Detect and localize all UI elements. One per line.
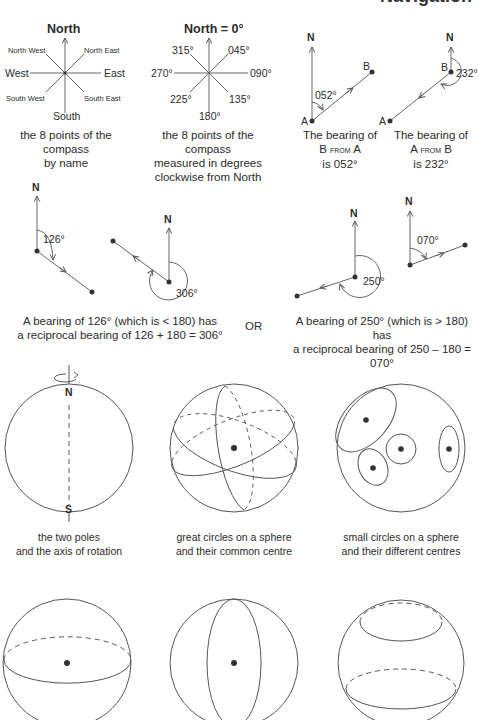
sphere-meridian xyxy=(170,599,298,720)
label-north-east: North East xyxy=(84,46,119,55)
label-n: N xyxy=(32,181,40,193)
label-n: N xyxy=(446,31,454,43)
direction-arrow-icon xyxy=(346,88,353,93)
label-n: N xyxy=(350,207,358,219)
label-south: South xyxy=(53,110,80,122)
label-east: East xyxy=(104,67,125,79)
label-135: 135° xyxy=(229,93,251,105)
label-south-west: South West xyxy=(6,94,45,103)
angle-arc-icon xyxy=(312,102,323,110)
label-angle-126: 126° xyxy=(43,233,65,245)
sphere-parallels xyxy=(338,600,464,720)
caption-sphere-poles: the two poles and the axis of rotation xyxy=(0,530,138,558)
label-225: 225° xyxy=(170,93,192,105)
label-point-a: A xyxy=(379,115,386,127)
label-north-west: North West xyxy=(8,46,45,55)
label-315: 315° xyxy=(172,44,194,56)
label-west: West xyxy=(5,67,29,79)
label-angle-232: 232° xyxy=(456,67,478,79)
bearing-a-from-b-diagram xyxy=(390,47,461,121)
label-south-east: South East xyxy=(84,94,121,103)
direction-arrow-icon xyxy=(133,256,140,261)
label-n: N xyxy=(164,213,172,225)
label-point-b: B xyxy=(441,61,448,73)
label-point-a: A xyxy=(301,115,308,127)
label-angle-070: 070° xyxy=(417,234,439,246)
caption-reciprocal-less: A bearing of 126° (which is < 180) has a… xyxy=(5,314,235,342)
direction-arrow-icon xyxy=(435,253,444,256)
direction-arrow-icon xyxy=(59,267,66,272)
label-angle-052: 052° xyxy=(315,89,337,101)
bearing-b-from-a-diagram xyxy=(312,47,372,121)
label-180: 180° xyxy=(199,110,221,122)
label-270: 270° xyxy=(151,67,173,79)
caption-reciprocal-greater: A bearing of 250° (which is > 180) has a… xyxy=(287,314,477,370)
point-a-dot xyxy=(310,119,315,124)
point-b-dot xyxy=(370,70,375,75)
angle-arc-icon xyxy=(410,248,426,259)
caption-great-circles: great circles on a sphere and their comm… xyxy=(163,530,305,558)
label-point-b: B xyxy=(363,60,370,72)
sphere-small-circles xyxy=(324,377,465,512)
caption-bearing-b-from-a: The bearing of B from A is 052° xyxy=(295,128,385,171)
or-label: OR xyxy=(245,320,262,332)
caption-bearing-a-from-b: The bearing of A from B is 232° xyxy=(386,128,476,171)
label-angle-306: 306° xyxy=(176,287,198,299)
direction-arrow-icon xyxy=(419,92,426,98)
label-angle-250: 250° xyxy=(363,275,385,287)
sphere-equator xyxy=(3,599,131,720)
rotation-arrow-icon xyxy=(54,374,76,382)
label-north-pole: N xyxy=(65,386,73,398)
label-n: N xyxy=(405,195,413,207)
label-045: 045° xyxy=(228,44,250,56)
caption-compass-degrees: the 8 points of the compass measured in … xyxy=(138,128,278,184)
label-north: North xyxy=(47,22,80,36)
label-n: N xyxy=(307,31,315,43)
label-north-zero: North = 0° xyxy=(184,22,244,36)
label-090: 090° xyxy=(250,67,272,79)
caption-compass-names: the 8 points of the compass by name xyxy=(0,128,132,170)
caption-small-circles: small circles on a sphere and their diff… xyxy=(330,530,472,558)
label-south-pole: S xyxy=(65,503,72,515)
